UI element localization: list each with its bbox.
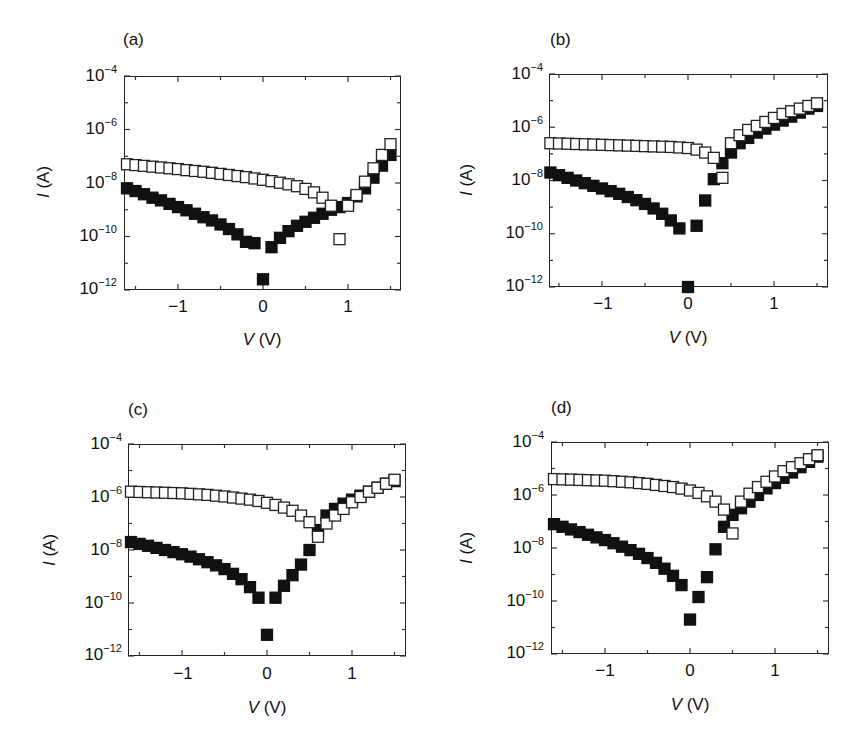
- y-axis-label: I (A): [40, 520, 60, 580]
- open-square-marker: [313, 531, 324, 542]
- y-tick: 10−10: [57, 224, 117, 246]
- filled-square-marker: [249, 238, 260, 249]
- filled-square-marker: [296, 559, 307, 570]
- x-tick: 1: [333, 297, 363, 317]
- panel-label-b: (b): [550, 30, 571, 50]
- open-square-marker: [717, 172, 728, 183]
- filled-square-marker: [304, 545, 315, 556]
- x-tick: 1: [759, 294, 789, 314]
- filled-square-marker: [702, 572, 713, 583]
- plot-area-d: [551, 442, 829, 654]
- open-square-marker: [377, 149, 388, 160]
- filled-square-marker: [683, 282, 694, 293]
- panel-label-a: (a): [123, 30, 144, 50]
- plot-area-b: [549, 74, 828, 287]
- y-tick: 10−10: [62, 591, 122, 613]
- x-tick: −1: [163, 297, 193, 317]
- filled-square-marker: [258, 274, 269, 285]
- y-axis-label: I (A): [457, 150, 477, 210]
- open-square-marker: [719, 504, 730, 515]
- x-tick: −1: [168, 664, 198, 684]
- filled-square-marker: [691, 220, 702, 231]
- x-tick: 0: [673, 294, 703, 314]
- x-axis-label: V (V): [648, 328, 728, 348]
- y-tick: 10−12: [62, 643, 122, 665]
- filled-square-marker: [676, 580, 687, 591]
- filled-square-marker: [262, 629, 273, 640]
- y-tick: 10−10: [484, 589, 544, 611]
- open-square-marker: [368, 163, 379, 174]
- filled-square-marker: [245, 582, 256, 593]
- y-tick: 10−4: [484, 430, 544, 452]
- y-tick: 10−6: [484, 483, 544, 505]
- filled-square-marker: [253, 592, 264, 603]
- panel-label-d: (d): [551, 398, 572, 418]
- y-axis-label: I (A): [457, 518, 477, 578]
- open-square-marker: [385, 139, 396, 150]
- y-axis-label: I (A): [34, 152, 54, 212]
- x-axis-label: V (V): [650, 695, 730, 715]
- x-tick: 0: [248, 297, 278, 317]
- y-tick: 10−8: [62, 538, 122, 560]
- x-tick: −1: [588, 294, 618, 314]
- filled-square-marker: [693, 592, 704, 603]
- y-tick: 10−6: [483, 115, 543, 137]
- open-square-marker: [708, 152, 719, 163]
- filled-square-marker: [287, 570, 298, 581]
- y-tick: 10−4: [57, 64, 117, 86]
- x-tick: 1: [337, 664, 367, 684]
- y-tick: 10−8: [57, 171, 117, 193]
- open-square-marker: [351, 190, 362, 201]
- filled-square-marker: [700, 195, 711, 206]
- open-square-marker: [812, 98, 823, 109]
- x-axis-label: V (V): [222, 330, 302, 350]
- open-square-marker: [304, 517, 315, 528]
- y-tick: 10−8: [484, 536, 544, 558]
- y-tick: 10−6: [57, 117, 117, 139]
- x-tick: 0: [252, 664, 282, 684]
- filled-square-marker: [279, 580, 290, 591]
- y-tick: 10−4: [483, 62, 543, 84]
- x-tick: 0: [675, 661, 705, 681]
- open-square-marker: [812, 450, 823, 461]
- y-tick: 10−4: [62, 432, 122, 454]
- y-tick: 10−6: [62, 485, 122, 507]
- filled-square-marker: [685, 614, 696, 625]
- filled-square-marker: [674, 223, 685, 234]
- plot-area-c: [128, 444, 406, 656]
- y-tick: 10−8: [483, 168, 543, 190]
- y-tick: 10−12: [484, 641, 544, 663]
- x-tick: −1: [590, 661, 620, 681]
- open-square-marker: [326, 200, 337, 211]
- panel-label-c: (c): [128, 400, 148, 420]
- open-square-marker: [389, 474, 400, 485]
- filled-square-marker: [270, 592, 281, 603]
- open-square-marker: [727, 528, 738, 539]
- filled-square-marker: [710, 544, 721, 555]
- open-square-marker: [360, 176, 371, 187]
- x-tick: 1: [760, 661, 790, 681]
- open-square-marker: [343, 200, 354, 211]
- y-tick: 10−12: [483, 274, 543, 296]
- open-square-marker: [334, 234, 345, 245]
- y-tick: 10−12: [57, 277, 117, 299]
- y-tick: 10−10: [483, 221, 543, 243]
- plot-area-a: [124, 76, 401, 290]
- x-axis-label: V (V): [227, 698, 307, 718]
